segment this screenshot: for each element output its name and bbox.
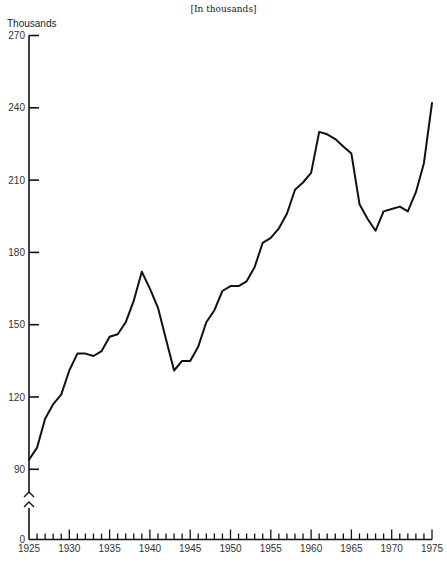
- x-tick-label: 1955: [260, 543, 283, 554]
- y-axis: 090120150180210240270: [8, 30, 39, 545]
- y-tick-label: 180: [8, 247, 25, 258]
- y-tick-label: 210: [8, 175, 25, 186]
- axis-break-icon: [24, 492, 34, 507]
- y-tick-label: 240: [8, 102, 25, 113]
- data-line: [29, 103, 432, 460]
- x-tick-label: 1940: [139, 543, 162, 554]
- y-tick-label: 90: [14, 464, 26, 475]
- x-axis: 1925193019351940194519501955196019651970…: [18, 530, 444, 555]
- x-tick-label: 1960: [300, 543, 323, 554]
- x-tick-label: 1965: [340, 543, 363, 554]
- x-tick-label: 1970: [381, 543, 404, 554]
- x-tick-label: 1975: [421, 543, 444, 554]
- x-tick-label: 1925: [18, 543, 41, 554]
- x-tick-label: 1945: [179, 543, 202, 554]
- x-tick-label: 1950: [219, 543, 242, 554]
- y-tick-label: 120: [8, 392, 25, 403]
- y-tick-label: 270: [8, 30, 25, 41]
- x-tick-label: 1935: [98, 543, 121, 554]
- y-tick-label: 150: [8, 319, 25, 330]
- line-chart: 090120150180210240270 192519301935194019…: [0, 0, 447, 563]
- x-tick-label: 1930: [58, 543, 81, 554]
